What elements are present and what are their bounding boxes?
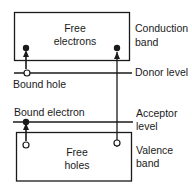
conduction-band-label: Conduction band: [135, 22, 188, 48]
donor-level-label: Donor level: [135, 66, 188, 78]
free-hole-circle-icon: [114, 140, 120, 146]
free-hole-circle-icon: [23, 142, 29, 148]
free-holes-label: Free holes: [52, 146, 102, 171]
free-holes-label-line2: holes: [52, 159, 102, 171]
free-electrons-label-line2: electrons: [50, 35, 100, 47]
bound-hole-label: Bound hole: [13, 78, 66, 90]
acceptor-level-label: Acceptor level: [136, 107, 177, 132]
free-electrons-label: Free electrons: [50, 22, 100, 47]
bound-electron-dot-icon: [23, 119, 29, 125]
free-electron-dot-icon: [114, 45, 120, 51]
valence-band-label-line1: Valence: [136, 144, 173, 156]
bound-electron-label: Bound electron: [14, 106, 85, 118]
free-electrons-label-line1: Free: [50, 22, 100, 34]
free-electron-dot-icon: [23, 45, 29, 51]
acceptor-level-label-line2: level: [136, 120, 177, 132]
bound-hole-circle-icon: [24, 70, 30, 76]
acceptor-level-label-line1: Acceptor: [136, 107, 177, 119]
valence-band-label: Valence band: [136, 144, 173, 169]
conduction-band-label-line2: band: [135, 36, 188, 48]
conduction-band-label-line1: Conduction: [135, 22, 188, 34]
valence-band-label-line2: band: [136, 157, 173, 169]
free-holes-label-line1: Free: [52, 146, 102, 158]
arrow-head-icon: [114, 52, 120, 59]
